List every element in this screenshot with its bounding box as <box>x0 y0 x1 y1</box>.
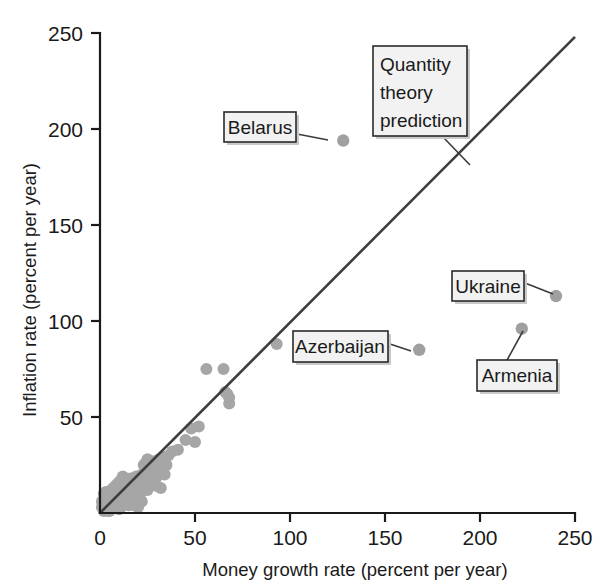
quantity-label-line3: prediction <box>380 110 462 131</box>
belarus-label: Belarus <box>228 117 292 138</box>
azerbaijan-leader-line <box>390 344 411 351</box>
y-tick-labels: 501001502002500 <box>48 22 83 525</box>
x-tick-label: 100 <box>272 526 307 549</box>
armenia-leader-line <box>506 331 523 362</box>
x-tick-label: 250 <box>557 526 592 549</box>
y-tick-label: 250 <box>48 22 83 45</box>
scatter-chart: 501001502002500 050100150200250 Inflatio… <box>0 0 616 586</box>
data-point <box>189 436 201 448</box>
belarus-leader-line <box>297 134 328 140</box>
data-point <box>149 478 161 490</box>
ukraine-label: Ukraine <box>455 276 520 297</box>
quantity-label-line1: Quantity <box>380 54 451 75</box>
callout-quantity-theory[interactable]: Quantity theory prediction <box>373 46 470 165</box>
y-axis-title: Inflation rate (percent per year) <box>19 163 40 417</box>
data-point <box>218 363 230 375</box>
plot-area: 501001502002500 050100150200250 Inflatio… <box>0 0 616 586</box>
data-point <box>136 495 148 507</box>
x-tick-labels: 050100150200250 <box>94 526 592 549</box>
data-point <box>200 363 212 375</box>
x-tick-label: 0 <box>94 526 106 549</box>
callout-ukraine[interactable]: Ukraine <box>452 271 553 304</box>
y-tick-label: 200 <box>48 118 83 141</box>
callout-armenia[interactable]: Armenia <box>477 331 560 394</box>
quantity-label-line2: theory <box>380 82 433 103</box>
y-tick-label: 150 <box>48 214 83 237</box>
data-point <box>550 290 562 302</box>
x-axis-title: Money growth rate (percent per year) <box>202 559 507 580</box>
x-tick-label: 150 <box>367 526 402 549</box>
data-points-layer <box>96 134 562 517</box>
azerbaijan-label: Azerbaijan <box>295 336 385 357</box>
data-point <box>145 467 157 479</box>
callout-belarus[interactable]: Belarus <box>224 112 328 145</box>
data-point <box>337 134 349 146</box>
ukraine-leader-line <box>525 283 553 294</box>
x-tick-marks <box>195 513 575 522</box>
quantity-leader-line <box>443 137 470 165</box>
x-tick-label: 200 <box>462 526 497 549</box>
x-tick-label: 50 <box>183 526 206 549</box>
data-point <box>142 453 154 465</box>
callout-azerbaijan[interactable]: Azerbaijan <box>293 331 411 365</box>
data-point <box>413 344 425 356</box>
y-tick-marks <box>91 33 100 417</box>
armenia-label: Armenia <box>482 365 553 386</box>
y-tick-label: 100 <box>48 310 83 333</box>
y-tick-label: 50 <box>60 406 83 429</box>
data-point <box>223 398 235 410</box>
